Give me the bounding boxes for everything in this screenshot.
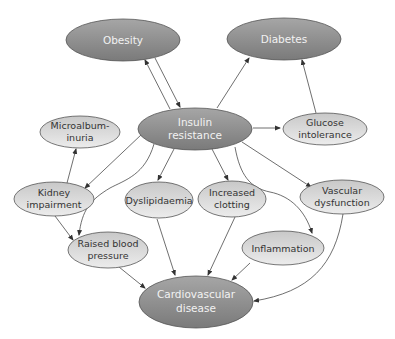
svg-text:Obesity: Obesity <box>103 34 143 46</box>
svg-text:resistance: resistance <box>168 129 222 141</box>
edge-inflam-to-cvd <box>232 263 250 280</box>
diagram-canvas: Obesity Diabetes Insulin resistance Card… <box>0 0 395 339</box>
node-microalbuminuria: Microalbum- inuria <box>40 116 120 148</box>
edge-obesity-to-insulin <box>155 58 180 107</box>
edge-insulin-to-vascular <box>242 142 311 187</box>
svg-text:Insulin: Insulin <box>178 116 212 128</box>
svg-text:intolerance: intolerance <box>298 129 352 140</box>
edge-insulin-to-obesity <box>145 60 170 109</box>
svg-text:Dyslipidaemia: Dyslipidaemia <box>125 195 192 206</box>
edge-kidney-to-microalb <box>67 149 76 183</box>
node-raised-blood-pressure: Raised blood pressure <box>68 232 148 268</box>
svg-text:Diabetes: Diabetes <box>261 33 308 45</box>
node-vascular-dysfunction: Vascular dysfunction <box>300 180 384 214</box>
node-kidney-impairment: Kidney impairment <box>14 182 94 216</box>
node-diabetes: Diabetes <box>227 18 341 60</box>
node-dyslipidaemia: Dyslipidaemia <box>125 182 193 218</box>
edge-insulin-to-dyslip <box>158 149 174 180</box>
node-glucose-intolerance: Glucose intolerance <box>283 113 367 145</box>
edge-insulin-to-diabetes <box>217 58 249 108</box>
svg-text:Raised blood: Raised blood <box>77 238 138 249</box>
svg-text:Cardiovascular: Cardiovascular <box>157 288 236 300</box>
node-insulin-resistance: Insulin resistance <box>138 108 252 150</box>
edge-kidney-to-bp <box>55 216 73 240</box>
svg-text:impairment: impairment <box>27 199 82 210</box>
svg-text:Glucose: Glucose <box>306 117 344 128</box>
node-increased-clotting: Increased clotting <box>198 181 266 217</box>
edge-bp-to-cvd <box>119 267 145 288</box>
edge-glucose-to-diabetes <box>302 60 316 113</box>
node-obesity: Obesity <box>66 19 180 61</box>
edge-dyslip-to-cvd <box>157 219 175 275</box>
svg-text:Vascular: Vascular <box>322 185 362 196</box>
svg-text:dysfunction: dysfunction <box>314 197 369 208</box>
node-inflammation: Inflammation <box>242 231 324 265</box>
svg-text:Increased: Increased <box>209 187 255 198</box>
svg-text:Inflammation: Inflammation <box>251 243 314 254</box>
svg-text:pressure: pressure <box>87 250 128 261</box>
svg-text:clotting: clotting <box>214 199 250 210</box>
edge-clotting-to-cvd <box>208 217 235 275</box>
edge-insulin-to-clotting <box>212 149 228 180</box>
svg-text:Kidney: Kidney <box>38 187 71 198</box>
svg-text:inuria: inuria <box>66 132 93 143</box>
svg-text:Microalbum-: Microalbum- <box>51 120 110 131</box>
svg-text:disease: disease <box>176 302 216 314</box>
node-cardiovascular-disease: Cardiovascular disease <box>139 276 253 328</box>
